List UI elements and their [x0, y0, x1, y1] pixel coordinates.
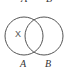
- set-label-a: A: [20, 59, 26, 69]
- circle-a: [5, 17, 43, 55]
- top-label-a: A: [21, 0, 27, 4]
- circle-b: [25, 17, 63, 55]
- set-label-b: B: [45, 59, 51, 69]
- region-marker-x: X: [15, 30, 21, 39]
- venn-circles: [0, 0, 68, 72]
- top-label-b: B: [46, 0, 52, 4]
- venn-diagram: A B X A B: [0, 0, 68, 72]
